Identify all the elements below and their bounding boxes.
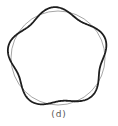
five-lobed-curve	[8, 7, 106, 104]
figure-caption: (d)	[0, 109, 118, 119]
diagram	[0, 0, 118, 110]
